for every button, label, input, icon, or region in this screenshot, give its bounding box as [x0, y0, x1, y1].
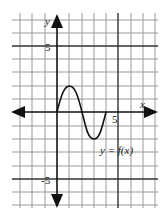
tick-label-y-5: 5: [45, 41, 51, 53]
coordinate-plane: y x 5 -5 5 y = f(x): [0, 0, 163, 208]
function-label: y = f(x): [99, 144, 133, 157]
x-axis-right-arrow-icon: [144, 106, 158, 118]
y-axis-up-arrow-icon: [51, 14, 63, 28]
y-axis-down-arrow-icon: [51, 194, 63, 208]
x-axis-label: x: [139, 98, 145, 110]
tick-label-x-5: 5: [112, 113, 118, 125]
tick-label-y-neg5: -5: [41, 174, 51, 186]
major-grid: [12, 13, 158, 208]
y-axis-label: y: [44, 15, 50, 27]
x-axis-left-arrow-icon: [11, 106, 25, 118]
